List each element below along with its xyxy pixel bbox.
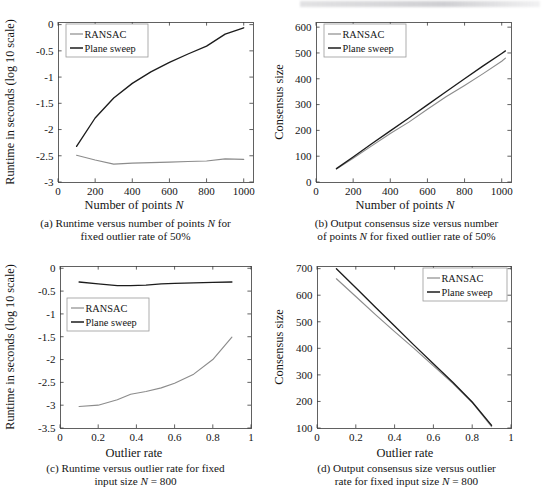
svg-text:400: 400 <box>296 342 313 354</box>
svg-text:400: 400 <box>124 185 141 197</box>
panel-b-plot: 020040060080010006005004003002001000Cons… <box>271 0 542 196</box>
caption-line-1: (d) Output consensus size versus outlier <box>277 462 536 475</box>
svg-text:500: 500 <box>295 47 312 59</box>
legend-label-plane-sweep: Plane sweep <box>343 43 394 54</box>
legend-label-plane-sweep: Plane sweep <box>442 287 493 298</box>
caption-line-2: of points N for fixed outlier rate of 50… <box>277 230 536 243</box>
caption-line-2: input size N = 800 <box>6 475 265 488</box>
svg-text:600: 600 <box>295 21 312 33</box>
svg-text:0: 0 <box>314 431 320 443</box>
figure-root: 020040060080010000-0.5-1-1.5-2-2.5-3Runt… <box>0 0 542 504</box>
svg-text:0: 0 <box>50 262 56 274</box>
svg-text:-0.5: -0.5 <box>36 45 54 57</box>
svg-text:600: 600 <box>419 185 436 197</box>
svg-text:Runtime in seconds (log 10 sca: Runtime in seconds (log 10 scale) <box>3 19 17 185</box>
svg-text:100: 100 <box>296 422 313 434</box>
panel-a-plot: 020040060080010000-0.5-1-1.5-2-2.5-3Runt… <box>0 0 271 196</box>
svg-text:400: 400 <box>295 73 312 85</box>
svg-text:600: 600 <box>161 185 178 197</box>
legend-label-ransac: RANSAC <box>442 273 484 284</box>
svg-text:600: 600 <box>296 289 313 301</box>
svg-text:1000: 1000 <box>233 185 256 197</box>
svg-text:200: 200 <box>87 185 104 197</box>
panel-a-svg: 020040060080010000-0.5-1-1.5-2-2.5-3Runt… <box>0 0 271 200</box>
svg-text:-3.5: -3.5 <box>38 422 56 434</box>
panel-c-plot: 00.20.40.60.810-0.5-1-1.5-2-2.5-3-3.5Run… <box>0 250 271 446</box>
svg-text:0: 0 <box>57 431 63 443</box>
legend-label-plane-sweep: Plane sweep <box>85 43 136 54</box>
caption-line-1: (c) Runtime versus outlier rate for fixe… <box>6 462 265 475</box>
svg-text:Runtime in seconds (log 10 sca: Runtime in seconds (log 10 scale) <box>3 264 17 430</box>
svg-text:-2.5: -2.5 <box>36 150 54 162</box>
svg-text:200: 200 <box>296 395 313 407</box>
svg-text:0: 0 <box>48 18 54 30</box>
svg-text:300: 300 <box>296 369 313 381</box>
svg-text:-1.5: -1.5 <box>36 97 54 109</box>
svg-text:0: 0 <box>55 185 61 197</box>
panel-b-legend: RANSACPlane sweep <box>324 24 406 57</box>
svg-text:-2: -2 <box>46 353 55 365</box>
svg-text:0.2: 0.2 <box>91 431 105 443</box>
caption-line-2: fixed outlier rate of 50% <box>6 230 265 243</box>
svg-text:300: 300 <box>295 98 312 110</box>
panel-b-caption: (b) Output consensus size versus numbero… <box>277 217 536 242</box>
svg-text:-2: -2 <box>44 123 53 135</box>
svg-text:-2.5: -2.5 <box>38 376 56 388</box>
svg-text:0.2: 0.2 <box>349 431 363 443</box>
svg-text:0.8: 0.8 <box>465 431 479 443</box>
svg-text:-1: -1 <box>44 71 53 83</box>
svg-text:-3: -3 <box>44 176 54 188</box>
svg-text:0.8: 0.8 <box>206 431 220 443</box>
svg-text:800: 800 <box>198 185 215 197</box>
svg-text:800: 800 <box>456 185 473 197</box>
svg-text:1: 1 <box>248 431 254 443</box>
caption-line-2: rate for fixed input size N = 800 <box>277 475 536 488</box>
panel-d-legend: RANSACPlane sweep <box>423 268 507 301</box>
panel-a-caption: (a) Runtime versus number of points N fo… <box>6 217 265 242</box>
svg-text:0.6: 0.6 <box>168 431 182 443</box>
panel-d-svg: 00.20.40.60.81700600500400300200100Conse… <box>271 250 542 448</box>
svg-text:0.4: 0.4 <box>130 431 144 443</box>
svg-text:500: 500 <box>296 316 313 328</box>
svg-text:0.4: 0.4 <box>388 431 402 443</box>
svg-text:0: 0 <box>313 185 319 197</box>
svg-text:1000: 1000 <box>491 185 514 197</box>
legend-label-ransac: RANSAC <box>86 303 128 314</box>
svg-text:Consensus size: Consensus size <box>272 309 286 385</box>
legend-label-ransac: RANSAC <box>343 29 385 40</box>
panel-a-xaxis-title: Number of points N <box>14 198 254 213</box>
panel-b: 020040060080010006005004003002001000Cons… <box>271 0 542 252</box>
panel-c-xaxis-title: Outlier rate <box>14 446 254 461</box>
svg-text:400: 400 <box>382 185 399 197</box>
panel-a: 020040060080010000-0.5-1-1.5-2-2.5-3Runt… <box>0 0 271 252</box>
svg-text:-1.5: -1.5 <box>38 331 56 343</box>
svg-text:700: 700 <box>296 262 313 274</box>
svg-text:-3: -3 <box>46 399 56 411</box>
svg-text:200: 200 <box>345 185 362 197</box>
svg-text:1: 1 <box>508 431 514 443</box>
svg-text:0: 0 <box>306 176 312 188</box>
svg-text:0.6: 0.6 <box>427 431 441 443</box>
panel-d-xaxis-title: Outlier rate <box>285 446 525 461</box>
panel-d: 00.20.40.60.81700600500400300200100Conse… <box>271 250 542 502</box>
legend-label-plane-sweep: Plane sweep <box>86 317 137 328</box>
caption-line-1: (b) Output consensus size versus number <box>277 217 536 230</box>
panel-c-svg: 00.20.40.60.810-0.5-1-1.5-2-2.5-3-3.5Run… <box>0 250 271 448</box>
caption-line-1: (a) Runtime versus number of points N fo… <box>6 217 265 230</box>
panel-c-legend: RANSACPlane sweep <box>67 298 149 331</box>
panel-a-legend: RANSACPlane sweep <box>66 24 148 57</box>
svg-text:Consensus size: Consensus size <box>272 64 286 140</box>
panel-c: 00.20.40.60.810-0.5-1-1.5-2-2.5-3-3.5Run… <box>0 250 271 502</box>
panel-d-plot: 00.20.40.60.81700600500400300200100Conse… <box>271 250 542 446</box>
svg-text:-1: -1 <box>46 308 55 320</box>
panel-c-caption: (c) Runtime versus outlier rate for fixe… <box>6 462 265 487</box>
svg-text:100: 100 <box>295 150 312 162</box>
panel-d-caption: (d) Output consensus size versus outlier… <box>277 462 536 487</box>
panel-b-svg: 020040060080010006005004003002001000Cons… <box>271 0 542 200</box>
panel-b-xaxis-title: Number of points N <box>285 198 525 213</box>
legend-label-ransac: RANSAC <box>85 29 127 40</box>
svg-text:200: 200 <box>295 124 312 136</box>
svg-text:-0.5: -0.5 <box>38 285 56 297</box>
